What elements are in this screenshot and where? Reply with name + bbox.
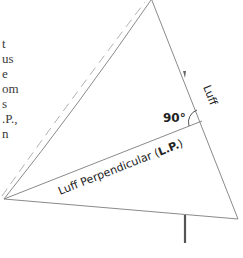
luff-label: Luff	[200, 83, 220, 107]
foot-line	[4, 199, 238, 219]
sail-diagram: Luff 90° Luff Perpendicular (L.P.)	[0, 0, 243, 258]
luff-line	[151, 0, 238, 219]
luff-perpendicular-line	[4, 121, 202, 199]
angle-label: 90°	[163, 111, 186, 125]
luff-arrow-icon	[183, 71, 186, 78]
luff-perpendicular-label: Luff Perpendicular (L.P.)	[56, 137, 185, 198]
